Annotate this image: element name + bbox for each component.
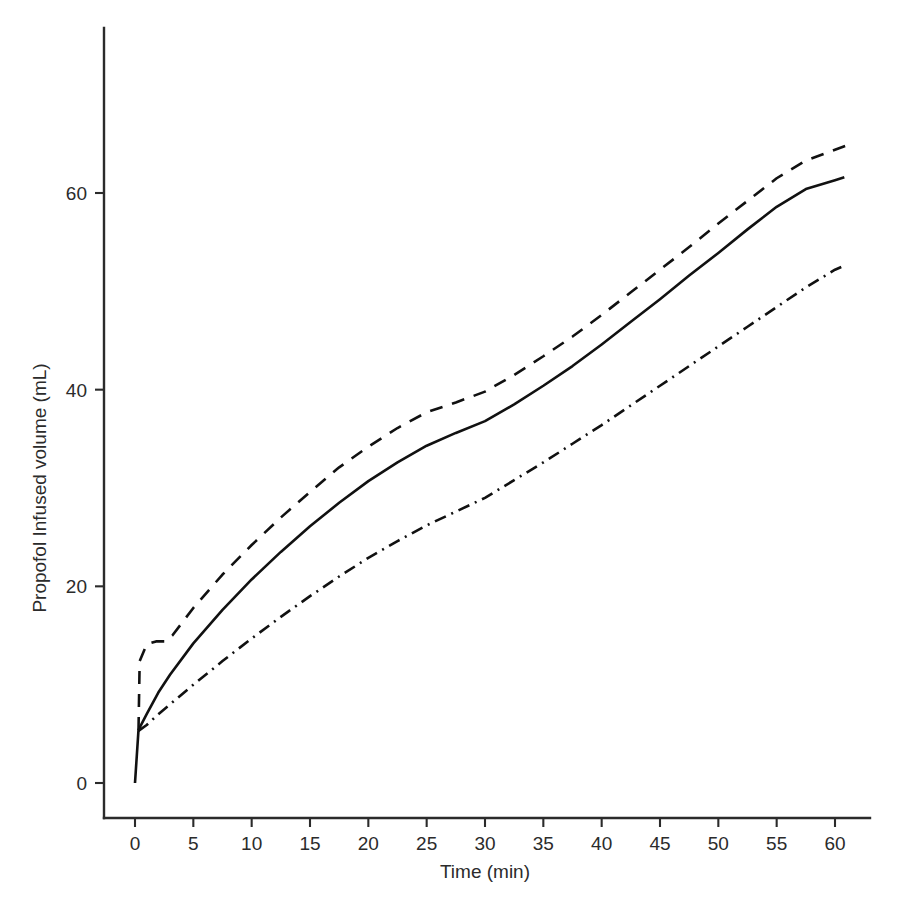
x-tick-label: 10	[241, 833, 262, 854]
series-line-dash-dot	[139, 266, 845, 731]
x-tick-label: 15	[299, 833, 320, 854]
figure-container: 051015202530354045505560 0204060 Time (m…	[0, 0, 899, 908]
x-tick-label: 45	[649, 833, 670, 854]
x-tick-label: 5	[188, 833, 199, 854]
series-line-dashed	[139, 146, 846, 730]
y-axis-title: Propofol Infused volume (mL)	[29, 363, 50, 612]
y-tick-label: 0	[76, 773, 87, 794]
x-axis-title: Time (min)	[440, 861, 530, 882]
x-tick-label: 20	[358, 833, 379, 854]
x-tick-label: 55	[766, 833, 787, 854]
series-line-solid	[135, 177, 844, 783]
tick-marks-group	[95, 193, 835, 827]
x-tick-label: 30	[474, 833, 495, 854]
x-tick-label: 50	[708, 833, 729, 854]
x-tick-label: 0	[130, 833, 141, 854]
y-tick-labels: 0204060	[66, 183, 87, 794]
data-series-group	[135, 146, 846, 783]
x-tick-label: 35	[533, 833, 554, 854]
x-tick-labels: 051015202530354045505560	[130, 833, 846, 854]
x-tick-label: 60	[824, 833, 845, 854]
propofol-infused-volume-chart: 051015202530354045505560 0204060 Time (m…	[0, 0, 899, 908]
axes-group	[104, 28, 870, 818]
y-tick-label: 20	[66, 576, 87, 597]
y-tick-label: 40	[66, 380, 87, 401]
x-tick-label: 40	[591, 833, 612, 854]
x-tick-label: 25	[416, 833, 437, 854]
y-tick-label: 60	[66, 183, 87, 204]
